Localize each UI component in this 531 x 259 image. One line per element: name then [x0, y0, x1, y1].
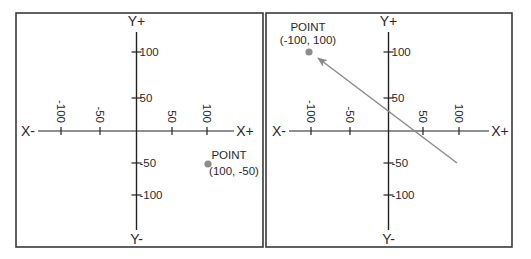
x-tick-label: -50: [344, 106, 356, 123]
y-tick-label: -50: [140, 157, 157, 169]
point-coords-label: (-100, 100): [280, 34, 336, 46]
x-tick-label: 50: [417, 110, 429, 123]
x-tick-label: -100: [305, 100, 317, 123]
y-tick-label: 50: [392, 92, 405, 104]
x-negative-label: X-: [272, 123, 286, 139]
y-positive-label: Y+: [380, 13, 398, 29]
right-panel: X-X+Y+Y--100-505010010050-50-100POINT(-1…: [266, 13, 512, 247]
y-tick-label: 50: [140, 92, 153, 104]
point-marker: [305, 48, 312, 55]
point-title-label: POINT: [290, 21, 325, 33]
point-title-label: POINT: [211, 149, 246, 161]
x-positive-label: X+: [491, 123, 509, 139]
x-tick-label: -50: [94, 106, 106, 123]
y-negative-label: Y-: [130, 231, 143, 247]
point-coords-label: (100, -50): [209, 165, 259, 177]
y-tick-label: -100: [392, 189, 415, 201]
y-tick-label: 100: [392, 46, 411, 58]
y-negative-label: Y-: [382, 231, 395, 247]
x-tick-label: 100: [453, 104, 465, 123]
y-tick-label: -50: [392, 157, 409, 169]
x-tick-label: 100: [201, 104, 213, 123]
movement-arrow: [318, 58, 457, 163]
x-tick-label: 50: [166, 110, 178, 123]
left-panel: X-X+Y+Y--100-505010010050-50-100POINT(10…: [16, 13, 263, 247]
x-negative-label: X-: [21, 123, 35, 139]
y-tick-label: 100: [140, 46, 159, 58]
coordinate-diagram: X-X+Y+Y--100-505010010050-50-100POINT(10…: [0, 0, 531, 259]
x-tick-label: -100: [55, 100, 67, 123]
x-positive-label: X+: [236, 123, 254, 139]
y-positive-label: Y+: [128, 13, 146, 29]
diagram-canvas: X-X+Y+Y--100-505010010050-50-100POINT(10…: [0, 0, 531, 259]
y-tick-label: -100: [140, 189, 163, 201]
